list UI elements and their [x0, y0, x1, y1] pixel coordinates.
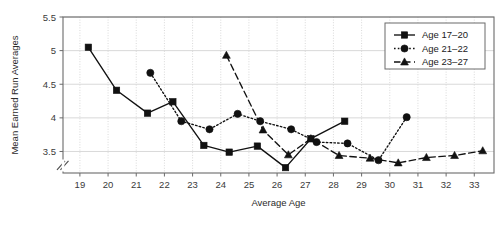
x-tick-label: 32	[441, 179, 452, 190]
chart-figure: 192021222324252627282930313233 3.544.555…	[0, 0, 502, 228]
x-tick-label: 29	[356, 179, 367, 190]
x-axis-tick-labels: 192021222324252627282930313233	[75, 179, 480, 190]
data-point-marker	[401, 45, 408, 52]
y-tick-label: 4.5	[43, 79, 56, 90]
legend-label: Age 17–20	[422, 29, 468, 40]
data-point-marker	[288, 126, 295, 133]
chart-legend: Age 17–20Age 21–22Age 23–27	[385, 23, 485, 69]
x-tick-label: 21	[131, 179, 142, 190]
y-tick-label: 5	[51, 45, 56, 56]
data-point-marker	[85, 44, 91, 50]
x-tick-label: 30	[384, 179, 395, 190]
legend-label: Age 23–27	[422, 56, 468, 67]
data-point-marker	[344, 140, 351, 147]
data-point-marker	[113, 87, 119, 93]
data-point-marker	[401, 32, 407, 38]
data-point-marker	[234, 110, 241, 117]
data-point-marker	[201, 142, 207, 148]
legend-label: Age 21–22	[422, 43, 468, 54]
data-point-marker	[226, 149, 232, 155]
x-tick-label: 22	[159, 179, 170, 190]
y-tick-label: 5.5	[43, 12, 56, 23]
x-tick-label: 23	[187, 179, 198, 190]
era-vs-age-line-chart: 192021222324252627282930313233 3.544.555…	[0, 0, 502, 228]
x-axis-title: Average Age	[251, 197, 305, 208]
x-tick-label: 33	[469, 179, 480, 190]
data-point-marker	[147, 69, 154, 76]
x-tick-label: 28	[328, 179, 339, 190]
y-axis-title: Mean Earned Run Averages	[9, 35, 20, 154]
x-tick-label: 27	[300, 179, 311, 190]
data-point-marker	[282, 164, 288, 170]
y-tick-label: 3.5	[43, 146, 56, 157]
x-tick-label: 19	[75, 179, 86, 190]
data-point-marker	[254, 143, 260, 149]
x-tick-label: 26	[272, 179, 283, 190]
x-tick-label: 20	[103, 179, 114, 190]
data-point-marker	[178, 118, 185, 125]
data-point-marker	[341, 118, 347, 124]
data-point-marker	[403, 114, 410, 121]
data-point-marker	[206, 126, 213, 133]
y-axis-tick-labels: 3.544.555.5	[43, 12, 56, 157]
x-tick-label: 25	[244, 179, 255, 190]
data-point-marker	[170, 99, 176, 105]
x-tick-label: 31	[413, 179, 424, 190]
x-tick-label: 24	[215, 179, 226, 190]
y-tick-label: 4	[51, 112, 56, 123]
data-point-marker	[144, 110, 150, 116]
